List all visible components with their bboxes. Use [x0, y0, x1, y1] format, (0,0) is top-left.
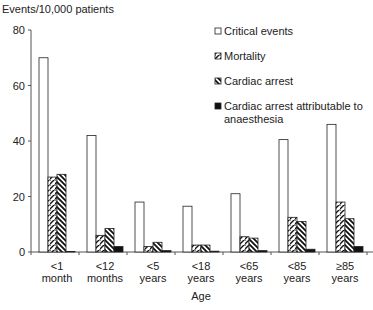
- legend-swatch: [215, 28, 221, 34]
- legend-swatch: [215, 78, 221, 84]
- legend-label: anaesthesia: [224, 113, 284, 125]
- x-tick-label: <5: [147, 260, 160, 272]
- bar: [162, 251, 171, 252]
- legend-swatch: [215, 53, 221, 59]
- x-tick-label: years: [236, 272, 263, 284]
- bar: [183, 206, 192, 252]
- chart-container: Events/10,000 patients 020406080 <1month…: [0, 0, 373, 310]
- bar: [306, 249, 315, 252]
- x-tick-label: <18: [192, 260, 211, 272]
- bar: [135, 202, 144, 252]
- legend: Critical eventsMortalityCardiac arrestCa…: [215, 25, 363, 125]
- bar: [240, 237, 249, 252]
- y-tick-label: 60: [13, 80, 25, 92]
- y-tick-label: 40: [13, 135, 25, 147]
- x-tick-label: years: [284, 272, 311, 284]
- bar: [210, 251, 219, 252]
- bar: [144, 246, 153, 252]
- x-tick-label: years: [188, 272, 215, 284]
- x-tick-label: <12: [96, 260, 115, 272]
- bar: [57, 174, 66, 252]
- bar: [279, 140, 288, 252]
- x-tick-label: <1: [51, 260, 64, 272]
- bar: [327, 124, 336, 252]
- y-tick-label: 20: [13, 191, 25, 203]
- x-tick-label: month: [42, 272, 73, 284]
- legend-label: Mortality: [224, 50, 266, 62]
- bar: [258, 251, 267, 252]
- x-tick-label: years: [332, 272, 359, 284]
- legend-label: Cardiac arrest attributable to: [224, 100, 363, 112]
- x-axis-label: Age: [191, 290, 211, 302]
- y-axis-label: Events/10,000 patients: [2, 3, 114, 15]
- y-tick-label: 0: [19, 246, 25, 258]
- bar: [153, 242, 162, 252]
- bar: [345, 219, 354, 252]
- bar: [288, 217, 297, 252]
- bar: [201, 245, 210, 252]
- bar: [249, 238, 258, 252]
- bar: [336, 202, 345, 252]
- y-tick-label: 80: [13, 24, 25, 36]
- bar: [66, 251, 75, 252]
- x-tick-label: <85: [288, 260, 307, 272]
- y-axis: 020406080: [13, 24, 31, 258]
- x-tick-label: years: [140, 272, 167, 284]
- legend-swatch: [215, 103, 221, 109]
- bar: [48, 177, 57, 252]
- bar-chart: Events/10,000 patients 020406080 <1month…: [0, 0, 373, 310]
- bar: [192, 245, 201, 252]
- bar: [354, 246, 363, 252]
- bar: [96, 235, 105, 252]
- bar: [39, 58, 48, 252]
- x-tick-label: months: [87, 272, 124, 284]
- x-tick-label: <65: [240, 260, 259, 272]
- bar: [114, 246, 123, 252]
- x-tick-label: ≥85: [336, 260, 354, 272]
- bar: [231, 194, 240, 252]
- bar: [105, 228, 114, 252]
- bar: [297, 221, 306, 252]
- x-axis: <1month<12months<5years<18years<65years<…: [31, 252, 373, 284]
- bars: [39, 58, 363, 252]
- bar: [87, 135, 96, 252]
- legend-label: Cardiac arrest: [224, 75, 293, 87]
- legend-label: Critical events: [224, 25, 294, 37]
